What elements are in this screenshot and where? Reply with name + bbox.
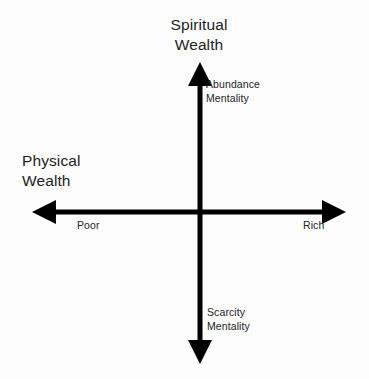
arrowhead-left-icon [32, 200, 56, 224]
vertical-axis-positive-label: Abundance Mentality [206, 78, 260, 105]
quadrant-diagram: Spiritual Wealth Physical Wealth Abundan… [0, 0, 369, 379]
arrowhead-down-icon [188, 340, 212, 364]
arrowhead-right-icon [322, 200, 346, 224]
horizontal-axis-negative-label: Poor [77, 219, 100, 232]
vertical-axis-title: Spiritual Wealth [129, 15, 269, 55]
horizontal-axis-title: Physical Wealth [22, 151, 132, 191]
vertical-axis-negative-label: Scarcity Mentality [207, 306, 250, 333]
horizontal-axis-positive-label: Rich [303, 219, 324, 232]
